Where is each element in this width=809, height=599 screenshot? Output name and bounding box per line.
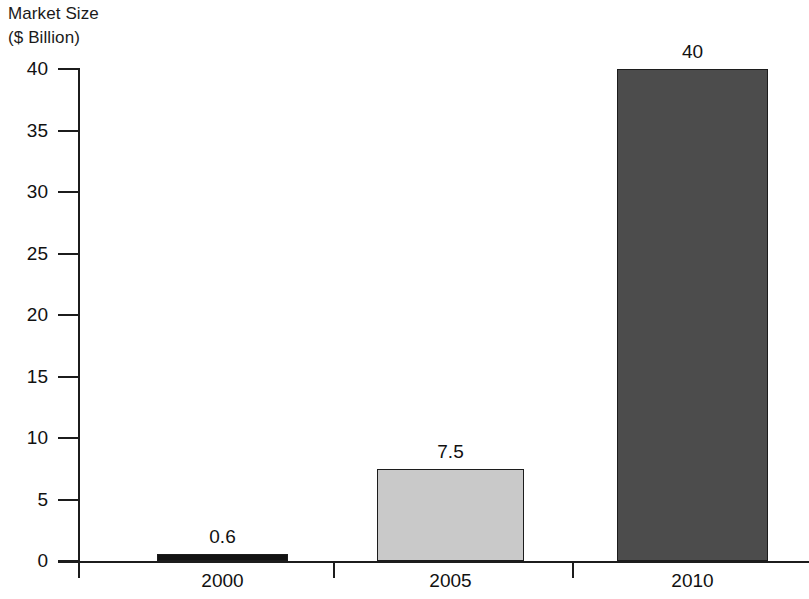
bar-value-label-2010: 40 — [617, 41, 768, 62]
y-axis-title-line1: Market Size — [8, 4, 99, 23]
y-axis-tick — [58, 68, 79, 70]
y-axis-tick — [58, 437, 79, 439]
x-axis-line — [58, 561, 809, 563]
y-axis-tick-label: 0 — [0, 551, 48, 570]
y-axis-tick — [58, 253, 79, 255]
y-axis-tick — [58, 314, 79, 316]
y-axis-tick — [58, 499, 79, 501]
y-axis-tick-label: 35 — [0, 121, 48, 140]
y-axis-tick — [58, 191, 79, 193]
x-axis-label-2005: 2005 — [347, 570, 554, 592]
y-axis-tick-label: 15 — [0, 367, 48, 386]
x-axis-separator-tick — [572, 562, 574, 578]
bar-value-label-2005: 7.5 — [377, 441, 524, 462]
y-axis-tick-label: 40 — [0, 59, 48, 78]
x-axis-separator-tick — [333, 562, 335, 578]
y-axis-tick — [58, 560, 79, 562]
y-axis-tick-label: 30 — [0, 182, 48, 201]
y-axis-tick-label: 20 — [0, 305, 48, 324]
y-axis-title: Market Size ($ Billion) — [8, 2, 99, 50]
y-axis-tick — [58, 130, 79, 132]
bar-2000[interactable] — [157, 554, 288, 561]
bar-value-label-2000: 0.6 — [157, 526, 288, 547]
y-axis-line — [78, 68, 80, 572]
y-axis-tick-label: 5 — [0, 490, 48, 509]
y-axis-tick — [58, 376, 79, 378]
y-axis-title-line2: ($ Billion) — [8, 26, 99, 50]
x-axis-label-2010: 2010 — [587, 570, 798, 592]
bar-2005[interactable] — [377, 469, 524, 561]
bar-2010[interactable] — [617, 69, 768, 561]
y-axis-stub — [78, 561, 80, 578]
chart-canvas: Market Size ($ Billion) 0510152025303540… — [0, 0, 809, 599]
y-axis-tick-label: 25 — [0, 244, 48, 263]
x-axis-label-2000: 2000 — [127, 570, 318, 592]
y-axis-tick-label: 10 — [0, 428, 48, 447]
